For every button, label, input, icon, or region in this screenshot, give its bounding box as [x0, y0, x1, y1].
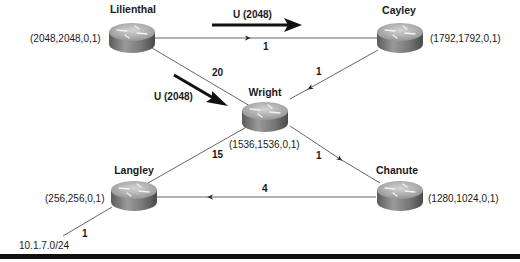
router-icon-cayley[interactable]: [377, 23, 423, 53]
router-icon-lilienthal[interactable]: [109, 23, 155, 53]
router-icon-langley[interactable]: [111, 181, 157, 211]
router-name-cayley: Cayley: [382, 4, 416, 16]
router-name-wright: Wright: [248, 86, 281, 98]
link-cost-cayley-wright: 1: [316, 66, 322, 77]
router-name-lilienthal: Lilienthal: [110, 3, 156, 15]
link-cost-langley-subnet: 1: [82, 228, 88, 239]
router-metric-cayley: (1792,1792,0,1): [430, 33, 501, 44]
link-cost-lilienthal-wright: 20: [212, 67, 223, 78]
link-cost-wright-chanute: 1: [316, 150, 322, 161]
bottom-divider: [0, 254, 520, 259]
update-arrow-top-icon: [212, 18, 302, 32]
router-metric-langley: (256,256,0,1): [45, 193, 105, 204]
link-cost-lilienthal-cayley: 1: [263, 41, 269, 52]
link-cost-chanute-langley: 4: [262, 183, 268, 194]
update-label-left: U (2048): [154, 91, 193, 102]
router-name-chanute: Chanute: [376, 164, 418, 176]
router-icon-wright[interactable]: [242, 102, 288, 132]
router-metric-chanute: (1280,1024,0,1): [428, 193, 499, 204]
router-icon-chanute[interactable]: [377, 181, 423, 211]
router-metric-wright: (1536,1536,0,1): [229, 139, 300, 150]
link-cost-wright-langley: 15: [212, 149, 223, 160]
router-name-langley: Langley: [114, 164, 154, 176]
router-metric-lilienthal: (2048,2048,0,1): [30, 33, 101, 44]
subnet-label: 10.1.7.0/24: [19, 240, 69, 251]
update-label-top: U (2048): [233, 9, 272, 20]
link-wright-langley: [148, 125, 250, 183]
